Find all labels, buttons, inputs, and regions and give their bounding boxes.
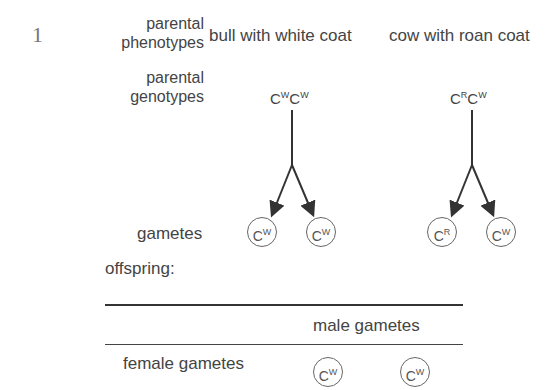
allele-sup: W — [502, 227, 511, 237]
allele-base: C — [319, 368, 329, 384]
gamete-circle: CW — [247, 217, 277, 247]
male-gamete-circle: CW — [313, 357, 343, 387]
gamete-circle: CR — [427, 217, 457, 247]
allele-base: C — [406, 368, 416, 384]
male-gamete-circle: CW — [400, 357, 430, 387]
allele-base: C — [253, 228, 263, 244]
allele-base: C — [434, 228, 444, 244]
female-gametes-header: female gametes — [123, 354, 244, 374]
table-top-rule — [105, 304, 463, 306]
allele-sup: R — [444, 227, 451, 237]
male-gametes-header: male gametes — [313, 316, 420, 336]
gamete-circle: CW — [306, 217, 336, 247]
gametes-label: gametes — [137, 224, 202, 243]
table-header-rule — [105, 344, 463, 345]
allele-sup: W — [329, 367, 338, 377]
allele-base: C — [312, 228, 322, 244]
offspring-label: offspring: — [105, 259, 175, 279]
allele-sup: W — [263, 227, 272, 237]
gamete-circle: CW — [486, 217, 516, 247]
allele-sup: W — [416, 367, 425, 377]
allele-base: C — [492, 228, 502, 244]
allele-sup: W — [322, 227, 331, 237]
